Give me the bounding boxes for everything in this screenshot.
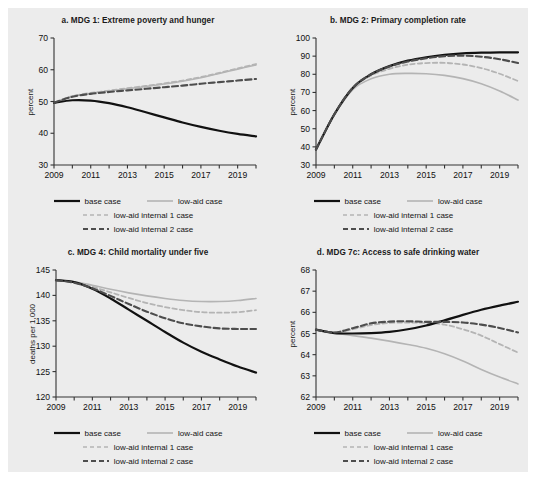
legend-label-low-aid-internal-1: low-aid internal 1 case (114, 443, 194, 452)
svg-text:30: 30 (300, 160, 310, 170)
panel-c-legend: base case low-aid case low-aid internal … (8, 426, 268, 468)
svg-text:2017: 2017 (192, 402, 211, 412)
svg-text:120: 120 (36, 392, 51, 402)
legend-swatch-base-case (314, 428, 340, 438)
chart-panel-b: b. MDG 2: Primary completion rate percen… (268, 8, 528, 240)
legend-swatch-low-aid-internal-1 (343, 442, 369, 452)
svg-text:50: 50 (38, 97, 48, 107)
legend-label-low-aid-internal-2: low-aid internal 2 case (374, 225, 454, 234)
svg-text:2015: 2015 (155, 170, 174, 180)
legend-item-low-aid-internal-1: low-aid internal 1 case (343, 210, 454, 220)
svg-text:90: 90 (300, 51, 310, 61)
legend-swatch-low-aid-internal-2 (343, 224, 369, 234)
svg-text:30: 30 (38, 160, 48, 170)
svg-text:2017: 2017 (453, 402, 472, 412)
legend-swatch-low-aid-case (407, 428, 433, 438)
svg-text:2013: 2013 (119, 402, 138, 412)
svg-text:60: 60 (300, 106, 310, 116)
legend-label-low-aid-internal-2: low-aid internal 2 case (114, 225, 194, 234)
legend-item-low-aid-internal-2: low-aid internal 2 case (83, 224, 194, 234)
svg-text:66: 66 (300, 307, 310, 317)
svg-text:68: 68 (300, 265, 310, 275)
legend-swatch-low-aid-internal-2 (83, 224, 109, 234)
legend-label-low-aid-internal-2: low-aid internal 2 case (374, 457, 454, 466)
panel-d-legend: base case low-aid case low-aid internal … (268, 426, 528, 468)
svg-text:40: 40 (300, 142, 310, 152)
svg-text:70: 70 (38, 33, 48, 43)
legend-swatch-base-case (54, 428, 80, 438)
svg-text:135: 135 (36, 316, 51, 326)
svg-text:50: 50 (300, 124, 310, 134)
svg-text:2011: 2011 (83, 402, 102, 412)
svg-text:2015: 2015 (417, 402, 436, 412)
svg-text:65: 65 (300, 329, 310, 339)
panel-b-legend: base case low-aid case low-aid internal … (268, 194, 528, 236)
legend-label-low-aid-case: low-aid case (178, 197, 222, 206)
legend-label-low-aid-case: low-aid case (438, 429, 482, 438)
svg-text:2019: 2019 (490, 402, 509, 412)
svg-text:62: 62 (300, 392, 310, 402)
svg-text:2015: 2015 (417, 170, 436, 180)
legend-item-low-aid-case: low-aid case (407, 428, 482, 438)
svg-text:2011: 2011 (343, 170, 362, 180)
legend-swatch-low-aid-case (147, 428, 173, 438)
legend-item-base-case: base case (314, 428, 381, 438)
svg-text:70: 70 (300, 87, 310, 97)
svg-text:2011: 2011 (81, 170, 100, 180)
svg-text:2009: 2009 (46, 402, 65, 412)
legend-label-low-aid-internal-2: low-aid internal 2 case (114, 457, 194, 466)
svg-text:63: 63 (300, 371, 310, 381)
svg-text:2013: 2013 (380, 170, 399, 180)
legend-item-low-aid-internal-2: low-aid internal 2 case (343, 456, 454, 466)
svg-text:130: 130 (36, 341, 51, 351)
legend-swatch-low-aid-internal-2 (343, 456, 369, 466)
svg-text:64: 64 (300, 350, 310, 360)
legend-label-base-case: base case (85, 197, 121, 206)
legend-item-base-case: base case (54, 196, 121, 206)
chart-panel-a: a. MDG 1: Extreme poverty and hunger per… (8, 8, 268, 240)
legend-swatch-base-case (54, 196, 80, 206)
svg-text:60: 60 (38, 65, 48, 75)
legend-label-low-aid-internal-1: low-aid internal 1 case (114, 211, 194, 220)
svg-text:2015: 2015 (156, 402, 175, 412)
legend-label-low-aid-internal-1: low-aid internal 1 case (374, 211, 454, 220)
svg-text:40: 40 (38, 128, 48, 138)
legend-swatch-low-aid-case (407, 196, 433, 206)
legend-item-base-case: base case (54, 428, 121, 438)
svg-text:2019: 2019 (490, 170, 509, 180)
svg-text:100: 100 (296, 33, 311, 43)
legend-label-low-aid-case: low-aid case (438, 197, 482, 206)
legend-item-low-aid-internal-2: low-aid internal 2 case (83, 456, 194, 466)
legend-swatch-low-aid-case (147, 196, 173, 206)
svg-text:2017: 2017 (453, 170, 472, 180)
legend-item-low-aid-internal-1: low-aid internal 1 case (83, 442, 194, 452)
panel-a-legend: base case low-aid case low-aid internal … (8, 194, 268, 236)
legend-swatch-low-aid-internal-1 (343, 210, 369, 220)
svg-text:125: 125 (36, 367, 51, 377)
svg-text:2011: 2011 (343, 402, 362, 412)
chart-panel-c: c. MDG 4: Child mortality under five dea… (8, 240, 268, 472)
chart-panel-d: d. MDG 7c: Access to safe drinking water… (268, 240, 528, 472)
legend-swatch-low-aid-internal-1 (83, 210, 109, 220)
legend-item-base-case: base case (314, 196, 381, 206)
legend-swatch-base-case (314, 196, 340, 206)
svg-text:145: 145 (36, 265, 51, 275)
legend-label-low-aid-internal-1: low-aid internal 1 case (374, 443, 454, 452)
svg-text:2009: 2009 (306, 170, 325, 180)
legend-item-low-aid-internal-1: low-aid internal 1 case (343, 442, 454, 452)
legend-label-base-case: base case (345, 197, 381, 206)
legend-swatch-low-aid-internal-2 (83, 456, 109, 466)
figure-container: a. MDG 1: Extreme poverty and hunger per… (8, 8, 528, 472)
svg-text:2019: 2019 (228, 170, 247, 180)
legend-label-base-case: base case (85, 429, 121, 438)
legend-item-low-aid-internal-1: low-aid internal 1 case (83, 210, 194, 220)
svg-text:2009: 2009 (306, 402, 325, 412)
legend-label-base-case: base case (345, 429, 381, 438)
svg-text:80: 80 (300, 69, 310, 79)
svg-text:2013: 2013 (380, 402, 399, 412)
legend-item-low-aid-case: low-aid case (407, 196, 482, 206)
legend-label-low-aid-case: low-aid case (178, 429, 222, 438)
svg-text:2019: 2019 (228, 402, 247, 412)
svg-text:67: 67 (300, 286, 310, 296)
svg-text:2009: 2009 (44, 170, 63, 180)
